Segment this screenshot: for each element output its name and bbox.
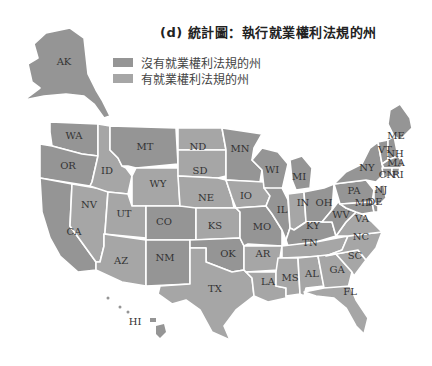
label-NY: NY xyxy=(359,162,375,173)
label-DE: DE xyxy=(367,196,382,207)
label-LA: LA xyxy=(261,276,276,287)
label-NC: NC xyxy=(353,231,370,242)
label-FL: FL xyxy=(343,286,357,297)
label-VA: VA xyxy=(354,213,370,224)
label-GA: GA xyxy=(329,264,345,275)
label-AL: AL xyxy=(304,268,319,279)
label-NE: NE xyxy=(198,192,214,203)
label-AR: AR xyxy=(255,248,271,259)
label-MT: MT xyxy=(137,141,154,152)
label-SC: SC xyxy=(348,250,363,261)
label-WI: WI xyxy=(265,164,279,175)
label-IL: IL xyxy=(277,204,288,215)
label-IO: IO xyxy=(240,190,252,201)
state-HI: HI xyxy=(107,297,167,339)
label-MS: MS xyxy=(281,272,298,283)
state-NM xyxy=(146,240,190,286)
label-AK: AK xyxy=(56,56,72,67)
label-CO: CO xyxy=(156,216,172,227)
label-KY: KY xyxy=(306,220,320,231)
us-map: AK HI xyxy=(0,0,432,366)
label-PA: PA xyxy=(347,185,361,196)
label-OK: OK xyxy=(220,248,236,259)
state-AK xyxy=(24,28,110,118)
label-OH: OH xyxy=(316,197,333,208)
label-UT: UT xyxy=(116,208,131,219)
label-IN: IN xyxy=(297,197,310,208)
label-ID: ID xyxy=(101,165,113,176)
label-TN: TN xyxy=(302,237,318,248)
label-HI: HI xyxy=(129,316,142,327)
label-KS: KS xyxy=(208,220,222,231)
label-SD: SD xyxy=(193,165,208,176)
label-TX: TX xyxy=(208,283,223,294)
label-MI: MI xyxy=(292,171,306,182)
label-ME: ME xyxy=(387,130,405,141)
label-NM: NM xyxy=(156,252,175,263)
state-FL xyxy=(304,286,368,334)
label-NV: NV xyxy=(81,199,98,210)
state-AK: AK xyxy=(24,28,110,118)
label-MO: MO xyxy=(253,221,271,232)
label-ND: ND xyxy=(190,141,207,152)
label-RI: RI xyxy=(392,169,404,180)
label-MN: MN xyxy=(231,143,250,154)
label-WY: WY xyxy=(150,178,167,189)
label-CA: CA xyxy=(67,226,83,237)
label-AZ: AZ xyxy=(113,255,128,266)
label-NJ: NJ xyxy=(375,184,388,195)
label-OR: OR xyxy=(60,160,76,171)
label-MA: MA xyxy=(387,157,405,168)
label-WA: WA xyxy=(65,130,83,141)
label-WV: WV xyxy=(332,209,350,220)
